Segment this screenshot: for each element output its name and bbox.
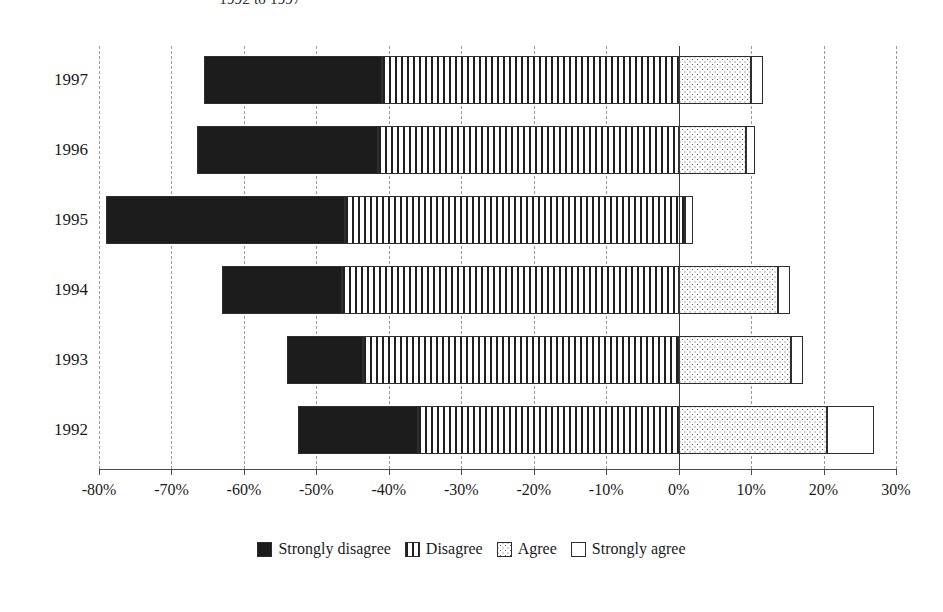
plot-area xyxy=(99,46,896,469)
segment-strongly-disagree-1997 xyxy=(204,56,382,104)
x-tick--60 xyxy=(244,469,245,475)
x-axis-line xyxy=(99,469,896,470)
solid-black-swatch xyxy=(257,542,272,557)
y-axis-label-1993: 1993 xyxy=(0,336,88,384)
segment-disagree-1996 xyxy=(378,126,679,174)
segment-strongly-agree-1993 xyxy=(791,336,803,384)
legend-item-3[interactable]: Strongly agree xyxy=(571,540,686,558)
segment-strongly-disagree-1996 xyxy=(197,126,378,174)
bar-row-1993 xyxy=(99,336,896,384)
y-axis-label-1992: 1992 xyxy=(0,406,88,454)
segment-strongly-agree-1997 xyxy=(751,56,763,104)
x-axis-label--30: -30% xyxy=(426,481,496,499)
x-axis-label--20: -20% xyxy=(499,481,569,499)
segment-strongly-agree-1996 xyxy=(746,126,755,174)
x-axis-label-30: 30% xyxy=(861,481,931,499)
x-axis-label-20: 20% xyxy=(789,481,859,499)
chart-legend: Strongly disagreeDisagreeAgreeStrongly a… xyxy=(0,540,943,558)
y-axis-label-1996: 1996 xyxy=(0,126,88,174)
segment-strongly-disagree-1992 xyxy=(298,406,418,454)
x-axis-label-0: 0% xyxy=(644,481,714,499)
bar-row-1996 xyxy=(99,126,896,174)
segment-disagree-1995 xyxy=(345,196,685,244)
x-tick-10 xyxy=(751,469,752,475)
segment-strongly-disagree-1993 xyxy=(287,336,363,384)
x-tick-20 xyxy=(824,469,825,475)
segment-strongly-agree-1995 xyxy=(685,196,693,244)
x-tick--70 xyxy=(171,469,172,475)
legend-label-1: Disagree xyxy=(426,540,483,558)
zero-axis-line xyxy=(679,46,680,469)
legend-item-1[interactable]: Disagree xyxy=(405,540,483,558)
white-swatch xyxy=(571,542,586,557)
x-tick--30 xyxy=(461,469,462,475)
segment-disagree-1992 xyxy=(418,406,679,454)
x-tick-0 xyxy=(679,469,680,475)
segment-strongly-agree-1992 xyxy=(827,406,874,454)
y-axis-label-1997: 1997 xyxy=(0,56,88,104)
segment-disagree-1997 xyxy=(382,56,679,104)
x-axis-label--10: -10% xyxy=(571,481,641,499)
gridline-30 xyxy=(896,46,897,469)
x-axis-label--40: -40% xyxy=(354,481,424,499)
dotted-swatch xyxy=(497,542,512,557)
chart-title: 1992 to 1997 xyxy=(0,0,520,8)
segment-agree-1993 xyxy=(679,336,791,384)
x-tick-30 xyxy=(896,469,897,475)
segment-agree-1994 xyxy=(679,266,778,314)
x-axis-label-10: 10% xyxy=(716,481,786,499)
segment-disagree-1994 xyxy=(342,266,679,314)
x-axis-label--70: -70% xyxy=(136,481,206,499)
bar-row-1994 xyxy=(99,266,896,314)
x-tick--50 xyxy=(316,469,317,475)
bar-row-1992 xyxy=(99,406,896,454)
x-axis-label--50: -50% xyxy=(281,481,351,499)
segment-agree-1997 xyxy=(679,56,751,104)
vertical-stripe-swatch xyxy=(405,542,420,557)
x-tick--40 xyxy=(389,469,390,475)
segment-strongly-disagree-1994 xyxy=(222,266,342,314)
y-axis-label-1995: 1995 xyxy=(0,196,88,244)
segment-agree-1992 xyxy=(679,406,828,454)
x-tick--80 xyxy=(99,469,100,475)
y-axis-label-1994: 1994 xyxy=(0,266,88,314)
segment-disagree-1993 xyxy=(363,336,678,384)
legend-label-3: Strongly agree xyxy=(592,540,686,558)
x-axis-label--80: -80% xyxy=(64,481,134,499)
segment-strongly-disagree-1995 xyxy=(106,196,345,244)
x-axis-label--60: -60% xyxy=(209,481,279,499)
legend-item-0[interactable]: Strongly disagree xyxy=(257,540,390,558)
x-tick--10 xyxy=(606,469,607,475)
segment-strongly-agree-1994 xyxy=(778,266,790,314)
segment-agree-1996 xyxy=(679,126,746,174)
x-tick--20 xyxy=(534,469,535,475)
bar-row-1995 xyxy=(99,196,896,244)
legend-item-2[interactable]: Agree xyxy=(497,540,557,558)
legend-label-2: Agree xyxy=(518,540,557,558)
legend-label-0: Strongly disagree xyxy=(278,540,390,558)
bar-row-1997 xyxy=(99,56,896,104)
